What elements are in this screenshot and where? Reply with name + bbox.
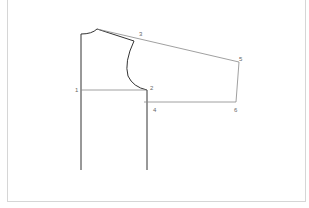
point-label-4: 4 [153,107,157,113]
sleeve-top-line [97,29,239,62]
neckline-curve [81,29,97,34]
point-label-5: 5 [239,56,243,62]
point-label-6: 6 [234,107,238,113]
point-label-1: 1 [75,87,79,93]
shoulder-line [97,29,134,41]
point-label-3: 3 [139,31,143,37]
pattern-diagram: 1 2 3 4 5 6 [0,0,309,208]
armhole-curve [127,41,147,90]
point-label-2: 2 [150,85,154,91]
sleeve-cuff-line [236,62,239,102]
